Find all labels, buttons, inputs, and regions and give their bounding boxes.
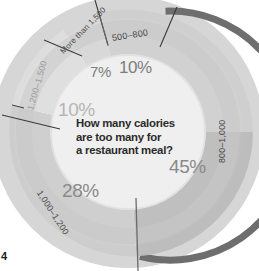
donut-chart: How many calories are too many for a res…: [0, 0, 259, 271]
category-label-800-1000: 800–1,000: [217, 120, 227, 163]
page-number: 4: [1, 250, 7, 262]
value-label-500-800: 10%: [119, 58, 152, 78]
value-label-800-1000: 45%: [169, 156, 206, 178]
value-label-1200-1500: 10%: [58, 99, 95, 121]
value-label-more-than-1500: 7%: [90, 63, 111, 80]
value-label-1000-1200: 28%: [62, 180, 99, 202]
